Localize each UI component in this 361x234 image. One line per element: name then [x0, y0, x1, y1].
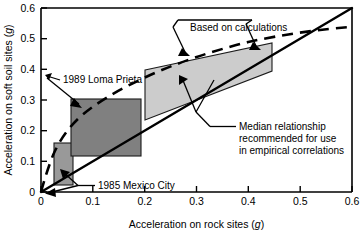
x-tick-labels: 0 0.1 0.2 0.3 0.4 0.5 0.6: [38, 195, 359, 207]
annotation-median-line2: recommended for use: [239, 133, 337, 144]
figure-root: 0 0.1 0.2 0.3 0.4 0.5 0.6 0 0.1 0.2 0.3 …: [0, 0, 361, 234]
x-axis-ticks: [41, 186, 352, 192]
y-tick-label: 0.3: [20, 94, 35, 106]
y-axis-ticks: [41, 8, 47, 192]
annotation-calculations-label: Based on calculations: [190, 22, 287, 33]
y-tick-labels: 0 0.1 0.2 0.3 0.4 0.5 0.6: [20, 2, 35, 198]
y-tick-label: 0: [29, 186, 35, 198]
annotation-median-label-group: Median relationship recommended for use …: [239, 121, 344, 156]
annotation-median-line3: in empirical correlations: [239, 145, 344, 156]
x-tick-label: 0.4: [241, 195, 256, 207]
y-tick-label: 0.6: [20, 2, 35, 14]
x-tick-label: 0.5: [293, 195, 308, 207]
region-based-on-calculations: [145, 43, 272, 120]
x-tick-label: 0.3: [189, 195, 204, 207]
y-tick-label: 0.2: [20, 124, 35, 136]
series-median-relationship: [41, 27, 352, 192]
annotation-median-line1: Median relationship: [239, 121, 326, 132]
annotation-mexico-city-label: 1985 Mexico City: [98, 180, 175, 191]
y-tick-label: 0.4: [20, 63, 35, 75]
x-tick-label: 0.2: [137, 195, 152, 207]
x-axis-label: Acceleration on rock sites (g): [129, 218, 264, 230]
acceleration-chart: 0 0.1 0.2 0.3 0.4 0.5 0.6 0 0.1 0.2 0.3 …: [0, 0, 361, 234]
x-tick-label: 0.1: [85, 195, 100, 207]
x-tick-label: 0.6: [345, 195, 360, 207]
y-tick-label: 0.1: [20, 155, 35, 167]
y-axis-label: Acceleration on soft soil sites (g): [2, 24, 14, 175]
y-tick-label: 0.5: [20, 32, 35, 44]
annotation-loma-prieta-label: 1989 Loma Prieta: [63, 74, 142, 85]
x-tick-label: 0: [38, 195, 44, 207]
